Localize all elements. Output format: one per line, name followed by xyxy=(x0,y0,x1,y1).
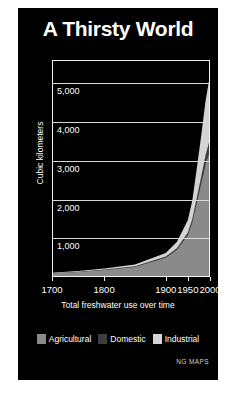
y-tick-label: 5,000 xyxy=(57,86,80,96)
y-tick-label: 2,000 xyxy=(57,203,80,213)
gridline xyxy=(52,161,210,162)
legend-label: Agricultural xyxy=(49,334,92,344)
x-tick-mark xyxy=(104,277,105,281)
credit-line: NG MAPS xyxy=(176,358,209,365)
gridline xyxy=(52,83,210,84)
axis-line-left xyxy=(52,60,53,277)
x-tick-label: 2000 xyxy=(199,284,218,295)
y-tick-label: 1,000 xyxy=(57,241,80,251)
chart-title: A Thirsty World xyxy=(18,17,218,41)
legend-swatch xyxy=(98,334,107,344)
legend-item: Agricultural xyxy=(37,334,92,344)
x-tick-label: 1700 xyxy=(41,284,62,295)
legend-swatch xyxy=(153,334,162,344)
y-axis-label: Cubic kilometers xyxy=(35,93,45,213)
legend-item: Domestic xyxy=(98,334,145,344)
x-tick-label: 1950 xyxy=(177,284,198,295)
x-axis-label: Total freshwater use over time xyxy=(18,300,218,310)
chart-figure: Cubic kilometers 1,0002,0003,0004,0005,0… xyxy=(18,52,218,312)
legend-item: Industrial xyxy=(153,334,200,344)
x-tick-mark xyxy=(52,277,53,281)
x-tick-label: 1900 xyxy=(155,284,176,295)
x-tick-mark xyxy=(210,277,211,281)
legend-label: Industrial xyxy=(165,334,200,344)
x-tick-mark xyxy=(188,277,189,281)
legend-swatch xyxy=(37,334,46,344)
axis-line-right xyxy=(209,60,210,277)
y-tick-label: 3,000 xyxy=(57,164,80,174)
y-tick-label: 4,000 xyxy=(57,125,80,135)
gridline xyxy=(52,238,210,239)
gridline xyxy=(52,200,210,201)
axis-line-bottom xyxy=(52,276,210,277)
chart-legend: AgriculturalDomesticIndustrial xyxy=(18,334,218,344)
axis-line-top xyxy=(52,60,210,61)
legend-label: Domestic xyxy=(110,334,145,344)
plot-area: 1,0002,0003,0004,0005,000 xyxy=(52,60,210,277)
chart-panel: A Thirsty World Cubic kilometers 1,0002,… xyxy=(18,8,218,380)
x-tick-mark xyxy=(166,277,167,281)
gridline xyxy=(52,122,210,123)
x-tick-label: 1800 xyxy=(94,284,115,295)
